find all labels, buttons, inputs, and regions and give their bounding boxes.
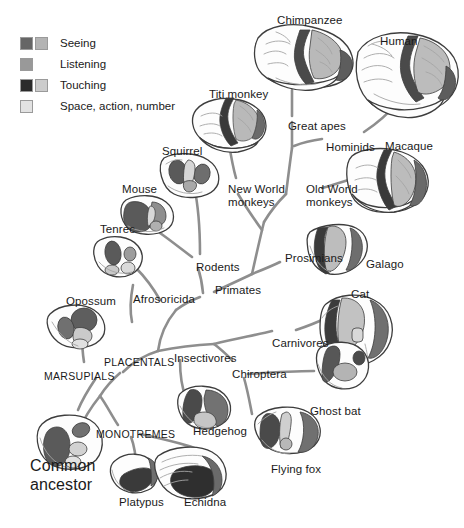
clade-label-monotremes: MONOTREMES: [96, 429, 175, 441]
legend-swatch-seeing: [20, 37, 50, 50]
clade-label-carnivores: Carnivores: [272, 337, 329, 350]
brain-evolution-tree-figure: .br { fill:none; stroke:#8e8e8e; stroke-…: [0, 0, 464, 528]
clade-label-placentals: PLACENTALS: [104, 357, 175, 369]
brain-squirrel: [160, 154, 218, 198]
species-label-squirrel: Squirrel: [162, 145, 202, 158]
species-label-human: Human: [380, 35, 418, 48]
species-label-chimpanzee: Chimpanzee: [277, 14, 343, 27]
root-label-line1: Common: [30, 457, 96, 476]
legend-item-listening: Listening: [20, 57, 175, 72]
swatch-touching-dark: [20, 79, 33, 92]
clade-label-old-world-monkeys-line2: monkeys: [306, 196, 358, 209]
legend-item-seeing: Seeing: [20, 36, 175, 51]
swatch-seeing-light: [35, 37, 48, 50]
clade-label-old-world-monkeys: Old World monkeys: [306, 183, 358, 209]
species-label-ghost-bat: Ghost bat: [310, 405, 361, 418]
brain-macaque: [347, 149, 429, 213]
clade-label-new-world-monkeys-line1: New World: [228, 183, 285, 196]
clade-label-rodents: Rodents: [196, 261, 240, 274]
brain-echidna: [155, 447, 226, 499]
swatch-touching-light: [35, 79, 48, 92]
clade-label-primates: Primates: [215, 284, 261, 297]
clade-label-afrosoricida: Afrosoricida: [133, 293, 195, 306]
legend-swatch-space-action-number: [20, 100, 50, 113]
brain-galago: [307, 225, 367, 275]
clade-label-new-world-monkeys-line2: monkeys: [228, 196, 285, 209]
species-label-opossum: Opossum: [66, 295, 116, 308]
swatch-space-action-number: [20, 100, 33, 113]
brain-opossum: [47, 305, 105, 349]
clade-label-prosimians: Prosimians: [285, 252, 343, 265]
clade-label-marsupials: MARSUPIALS: [44, 371, 115, 383]
species-label-hedgehog: Hedgehog: [193, 425, 247, 438]
species-label-flying-fox: Flying fox: [271, 463, 321, 476]
clade-label-hominids: Hominids: [326, 141, 375, 154]
brain-titi-monkey: [193, 98, 266, 152]
species-label-cat: Cat: [351, 288, 369, 301]
species-label-tenrec: Tenrec: [100, 223, 135, 236]
brain-hedgehog: [178, 386, 231, 429]
brain-tenrec: [94, 237, 143, 277]
legend-label-space-action-number: Space, action, number: [60, 101, 175, 113]
legend-swatch-listening: [20, 58, 50, 71]
clade-label-chiroptera: Chiroptera: [232, 368, 287, 381]
species-label-titi-monkey: Titi monkey: [209, 88, 268, 101]
species-label-macaque: Macaque: [385, 140, 433, 153]
clade-label-insectivores: Insectivores: [174, 352, 237, 365]
legend-label-seeing: Seeing: [60, 38, 96, 50]
species-label-galago: Galago: [366, 258, 404, 271]
legend-item-space-action-number: Space, action, number: [20, 99, 175, 114]
root-label-line2: ancestor: [30, 476, 96, 495]
legend-item-touching: Touching: [20, 78, 175, 93]
swatch-seeing-dark: [20, 37, 33, 50]
clade-label-old-world-monkeys-line1: Old World: [306, 183, 358, 196]
legend-label-listening: Listening: [60, 59, 106, 71]
clade-label-great-apes: Great apes: [288, 120, 346, 133]
species-label-platypus: Platypus: [119, 496, 164, 509]
brain-platypus: [110, 454, 158, 493]
brain-chimpanzee: [255, 25, 353, 91]
species-label-mouse: Mouse: [122, 183, 157, 196]
clade-label-new-world-monkeys: New World monkeys: [228, 183, 285, 209]
legend: Seeing Listening Touching Space, action,…: [20, 36, 175, 120]
legend-swatch-touching: [20, 79, 50, 92]
root-label-common-ancestor: Common ancestor: [30, 457, 96, 495]
species-label-echidna: Echidna: [184, 496, 226, 509]
legend-label-touching: Touching: [60, 80, 106, 92]
swatch-listening: [20, 58, 33, 71]
